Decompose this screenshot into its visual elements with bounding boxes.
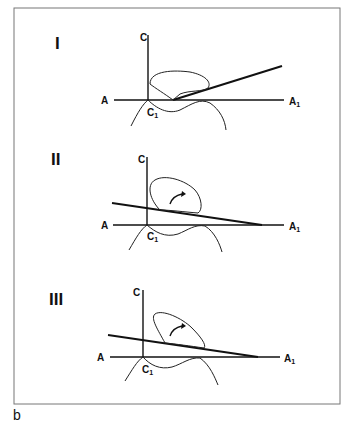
- label-c: C: [138, 154, 145, 165]
- inclined-line: [108, 335, 258, 357]
- label-a: A: [97, 352, 104, 363]
- label-c1: C1: [147, 107, 158, 119]
- label-c: C: [133, 287, 140, 298]
- arrowhead-icon: [181, 191, 186, 197]
- arrowhead-icon: [181, 323, 186, 329]
- panel-3: III A A1 C C1: [49, 287, 295, 385]
- label-a: A: [101, 95, 108, 106]
- rotation-arrow-icon: [170, 194, 182, 204]
- panel-numeral: II: [51, 150, 60, 169]
- condyle-outline: [150, 178, 201, 213]
- panel-2: II A A1 C C1: [51, 150, 300, 252]
- label-a1: A1: [289, 96, 300, 108]
- condyle-outline: [150, 71, 209, 100]
- figure-caption: b: [13, 407, 21, 423]
- label-a: A: [101, 220, 108, 231]
- panel-numeral: I: [55, 34, 60, 53]
- panel-1: I A A1 C C1: [55, 32, 300, 130]
- fossa-outline: [129, 225, 222, 252]
- panel-numeral: III: [49, 290, 63, 309]
- label-a1: A1: [289, 221, 300, 233]
- label-c1: C1: [142, 364, 153, 376]
- fossa-outline: [131, 100, 226, 130]
- figure-diagram: I A A1 C C1 II A A1 C C1 III A A1: [0, 0, 347, 424]
- rotation-arrow-icon: [170, 326, 182, 336]
- label-c1: C1: [147, 231, 158, 243]
- fossa-outline: [125, 357, 218, 385]
- label-c: C: [140, 32, 147, 43]
- inclined-line: [112, 203, 262, 225]
- label-a1: A1: [284, 353, 295, 365]
- inclined-line: [173, 66, 282, 100]
